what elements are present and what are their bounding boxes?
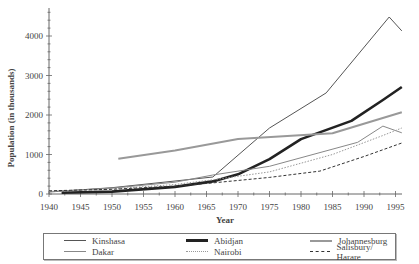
legend-label: Kinshasa xyxy=(92,236,125,246)
y-tick-label: 1000 xyxy=(25,150,44,160)
x-axis-title: Year xyxy=(216,215,234,225)
x-tick-label: 1940 xyxy=(40,202,59,212)
y-tick-label: 0 xyxy=(39,189,44,199)
legend-swatch-dakar xyxy=(64,251,86,252)
legend-item-abidjan: Abidjan xyxy=(186,235,243,246)
x-tick-label: 1970 xyxy=(229,202,248,212)
legend: Kinshasa Abidjan Johannesburg Dakar Nair… xyxy=(43,233,396,260)
legend-swatch-salisbury-harare xyxy=(310,251,330,252)
x-tick-label: 1960 xyxy=(166,202,185,212)
legend-label: Dakar xyxy=(92,247,114,257)
legend-item-dakar: Dakar xyxy=(64,246,114,257)
y-tick-label: 2000 xyxy=(25,110,44,120)
y-tick-label: 4000 xyxy=(25,31,44,41)
x-tick-label: 1955 xyxy=(135,202,154,212)
legend-item-nairobi: Nairobi xyxy=(186,246,242,257)
x-tick-label: 1990 xyxy=(355,202,374,212)
x-tick-label: 1975 xyxy=(261,202,280,212)
legend-swatch-nairobi xyxy=(186,251,208,252)
legend-item-salisbury-harare: Salisbury/ Harare xyxy=(310,246,395,257)
legend-swatch-abidjan xyxy=(186,239,208,242)
y-tick-label: 3000 xyxy=(25,71,44,81)
series-group xyxy=(49,17,402,193)
legend-label: Salisbury/ Harare xyxy=(336,242,395,262)
x-tick-label: 1950 xyxy=(103,202,122,212)
x-tick-label: 1985 xyxy=(324,202,343,212)
x-tick-label: 1945 xyxy=(72,202,91,212)
y-axis-title: Population (in thousands) xyxy=(6,68,16,167)
legend-swatch-kinshasa xyxy=(64,240,86,241)
series-line-johannesburg xyxy=(118,112,402,159)
legend-label: Abidjan xyxy=(214,236,243,246)
legend-label: Nairobi xyxy=(214,247,242,257)
x-tick-label: 1965 xyxy=(198,202,217,212)
series-line-salisbury-harare xyxy=(49,143,402,191)
x-tick-label: 1995 xyxy=(387,202,406,212)
series-line-kinshasa xyxy=(49,17,402,192)
legend-item-kinshasa: Kinshasa xyxy=(64,235,125,246)
legend-swatch-johannesburg xyxy=(310,240,332,242)
x-tick-label: 1980 xyxy=(292,202,311,212)
line-chart: 0100020003000400019401945195019551960196… xyxy=(0,0,419,232)
